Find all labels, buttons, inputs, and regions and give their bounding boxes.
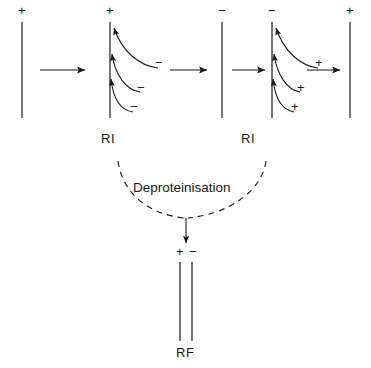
panel-2-species-label: RI bbox=[101, 131, 115, 146]
panel-2-charge-1: − bbox=[155, 56, 163, 69]
panel-rf-species-label: RF bbox=[176, 345, 194, 360]
panel-2-top-charge: + bbox=[106, 4, 114, 17]
deproteinisation-label: Deproteinisation bbox=[133, 180, 231, 195]
panel-4-species-label: RI bbox=[241, 131, 255, 146]
panel-rf-charge-plus: + bbox=[176, 245, 184, 258]
panel-2-charge-2: − bbox=[137, 81, 145, 94]
panel-rf-charge-minus: − bbox=[189, 245, 197, 258]
panel-4-charge-2: + bbox=[297, 81, 305, 94]
diagram-canvas: + + − − − RI − − + + + RI + Deproteinisa… bbox=[0, 0, 371, 368]
panel-3-top-charge: − bbox=[218, 4, 226, 17]
panel-4-top-charge: − bbox=[268, 4, 276, 17]
panel-4-charge-1: + bbox=[315, 56, 323, 69]
panel-rf-strands bbox=[180, 262, 192, 341]
panel-1-top-charge: + bbox=[18, 4, 26, 17]
panel-4-charge-3: + bbox=[291, 100, 299, 113]
panel-2-charge-3: − bbox=[130, 100, 138, 113]
panel-5-top-charge: + bbox=[346, 4, 354, 17]
